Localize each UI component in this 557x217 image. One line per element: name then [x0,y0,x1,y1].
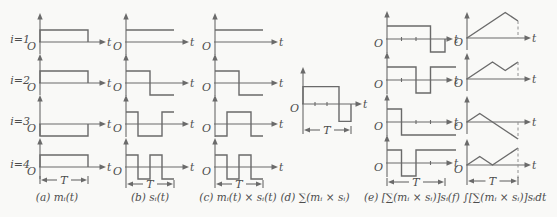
panel-a2-y-axis-arrow [37,54,42,61]
period-marker-d-label: T [323,124,332,137]
panel-c2-y-axis-arrow [212,54,217,61]
panel-f2-waveform [467,62,518,79]
panel-d1-t-label: t [363,98,368,110]
panel-f4-t-label: t [532,159,537,171]
panel-a1-y-axis-arrow [37,13,42,20]
panel-c4-y-axis-arrow [212,138,217,145]
period-marker-f-right-arrow [511,178,517,183]
panel-f2-t-axis-arrow [525,76,532,81]
period-marker-d-right-arrow [344,127,350,132]
period-marker-f-left-arrow [468,178,474,183]
period-marker-b-label: T [146,178,155,191]
panel-a3-t-axis-arrow [100,121,107,126]
panel-e1-origin-label: O [374,37,383,50]
panel-f1-t-axis-arrow [525,35,532,40]
panel-b1-origin-label: O [113,40,122,53]
panel-c4-t-label: t [279,161,284,173]
panel-f3-waveform [467,114,518,140]
panel-c3-y-axis-arrow [212,95,217,102]
panel-c2-t-label: t [279,77,284,89]
panel-b1-t-label: t [190,36,195,48]
panel-f4-y-axis-arrow [464,139,469,146]
panel-f4-t-axis-arrow [525,162,532,167]
panel-a3-waveform [40,124,88,136]
period-marker-e-right-arrow [438,179,444,184]
panel-e4-origin-label: O [374,161,383,174]
waveform-figure: OtOtOtOtOtOtOtOtOtOtOtOtOtOtOtOtOtOtOtOt… [0,0,557,217]
panel-f2-t-label: t [532,73,537,85]
panel-b4-y-axis-arrow [123,138,128,145]
caption-a: (a) mᵢ(t) [15,191,99,203]
panel-a3-t-label: t [107,118,112,130]
period-marker-d-left-arrow [304,127,310,132]
panel-b1-y-axis-arrow [123,13,128,20]
period-marker-a-left-arrow [41,177,47,182]
period-marker-c-right-arrow [256,181,262,186]
panel-b3-y-axis-arrow [123,95,128,102]
panel-a1-t-axis-arrow [100,39,107,44]
row-label-i4: i=4 [4,159,30,171]
panel-c1-origin-label: O [202,40,211,53]
panel-a4-y-axis-arrow [37,138,42,145]
period-marker-f-label: T [489,175,498,188]
panel-f2-y-axis-arrow [464,53,469,60]
panel-f3-t-label: t [532,116,537,128]
panel-f1-t-label: t [532,32,537,44]
period-marker-c-left-arrow [216,181,222,186]
panel-c4-t-axis-arrow [272,164,279,169]
panel-f4-origin-label: O [454,163,463,176]
panel-f3-origin-label: O [454,120,463,133]
panel-d1-origin-label: O [290,102,299,115]
panel-e2-y-axis-arrow [384,52,389,59]
panel-e3-origin-label: O [374,120,383,133]
panel-b2-y-axis-arrow [123,54,128,61]
panel-e1-y-axis-arrow [384,11,389,18]
panel-b4-t-axis-arrow [183,164,190,169]
panel-b4-origin-label: O [113,165,122,178]
panel-c4-origin-label: O [202,165,211,178]
panel-d1-t-axis-arrow [356,101,363,106]
figure-canvas: OtOtOtOtOtOtOtOtOtOtOtOtOtOtOtOtOtOtOtOt… [0,0,557,217]
panel-f1-origin-label: O [454,36,463,49]
row-label-i3: i=3 [4,116,30,128]
panel-b2-t-axis-arrow [183,80,190,85]
period-marker-b-right-arrow [167,181,173,186]
panel-b2-origin-label: O [113,81,122,94]
panel-a1-t-label: t [107,36,112,48]
panel-b1-t-axis-arrow [183,39,190,44]
row-label-i2: i=2 [4,75,30,87]
panel-a4-t-axis-arrow [100,164,107,169]
period-marker-c-label: T [235,178,244,191]
panel-b2-t-label: t [190,77,195,89]
panel-a4-t-label: t [107,161,112,173]
panel-a1-waveform [40,30,88,42]
panel-c3-origin-label: O [202,122,211,135]
row-label-i1: i=1 [4,34,30,46]
panel-e2-origin-label: O [374,78,383,91]
period-marker-a-right-arrow [81,177,87,182]
panel-c3-t-label: t [279,118,284,130]
panel-a2-t-axis-arrow [100,80,107,85]
panel-a2-waveform [40,71,88,83]
panel-f4-waveform [467,148,518,165]
panel-f1-waveform [467,13,518,39]
panel-f2-origin-label: O [454,77,463,90]
panel-e3-t-axis-arrow [447,119,454,124]
panel-f3-t-axis-arrow [525,119,532,124]
panel-f3-y-axis-arrow [464,96,469,103]
panel-d1-y-axis-arrow [300,67,305,74]
panel-c3-t-axis-arrow [272,121,279,126]
panel-b4-t-label: t [190,161,195,173]
caption-f: (f) ∫[∑(mᵢ × sᵢ)]sᵢdt [440,191,554,203]
caption-b: (b) sᵢ(t) [109,191,191,203]
period-marker-b-left-arrow [127,181,133,186]
panel-b3-t-label: t [190,118,195,130]
period-marker-a-label: T [60,174,69,187]
panel-c2-t-axis-arrow [272,80,279,85]
panel-c2-origin-label: O [202,81,211,94]
panel-c1-t-axis-arrow [272,39,279,44]
panel-e2-t-axis-arrow [447,77,454,82]
panel-c1-y-axis-arrow [212,13,217,20]
panel-a4-waveform [40,155,88,167]
panel-e4-y-axis-arrow [384,135,389,142]
